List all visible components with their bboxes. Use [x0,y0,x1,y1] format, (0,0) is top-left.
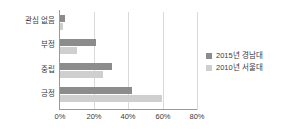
category-label-3: 긍정 [1,89,55,98]
legend-item-2010: 2010년 서울대 [206,62,286,73]
plot-area [59,12,197,110]
x-axis-line [59,109,197,110]
bar-group-3 [60,85,197,109]
legend-swatch-icon-2015 [206,53,212,59]
legend-label-2010: 2010년 서울대 [216,63,263,72]
legend-swatch-icon-2010 [206,65,212,71]
x-tick-1: 20% [86,112,101,122]
x-tick-2: 40% [120,112,135,122]
bar-chart: 관심 없음 부정 중립 긍정 0% 20% 40% [0,0,288,134]
bar-2010-cat3 [60,95,162,102]
gridline-80 [197,12,198,110]
bar-2010-cat2 [60,71,103,78]
bar-2015-cat0 [60,15,65,22]
legend-item-2015: 2015년 경남대 [206,50,286,61]
legend-label-2015: 2015년 경남대 [216,51,263,60]
x-tick-4: 80% [189,112,204,122]
category-label-0: 관심 없음 [1,16,55,25]
bar-2015-cat2 [60,63,112,70]
bar-2010-cat1 [60,47,77,54]
bar-group-1 [60,37,197,61]
category-label-1: 부정 [1,40,55,49]
bar-group-2 [60,61,197,85]
x-axis-tick-labels: 0% 20% 40% 60% 80% [59,112,197,126]
x-tick-3: 60% [155,112,170,122]
category-label-2: 중립 [1,65,55,74]
y-axis-category-labels: 관심 없음 부정 중립 긍정 [0,12,55,110]
bar-2010-cat0 [60,23,63,30]
bar-group-0 [60,13,197,37]
x-tick-0: 0% [55,112,66,122]
bar-2015-cat3 [60,87,132,94]
chart-legend: 2015년 경남대 2010년 서울대 [206,50,286,74]
bar-2015-cat1 [60,39,96,46]
